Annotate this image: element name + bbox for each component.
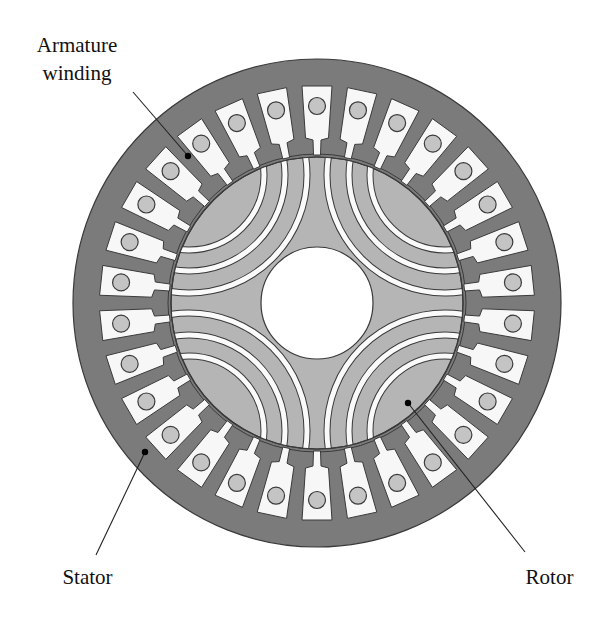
armature-conductor <box>479 393 496 410</box>
armature-conductor <box>389 474 406 491</box>
armature-winding-label: Armature winding <box>22 31 132 87</box>
armature-conductor <box>424 454 441 471</box>
armature-conductor <box>138 393 155 410</box>
armature-conductor <box>496 234 513 251</box>
rotor-label: Rotor <box>512 563 587 591</box>
armature-conductor <box>504 315 521 332</box>
rotor-leader-dot <box>405 400 411 406</box>
armature-conductor <box>162 163 179 180</box>
armature-conductor <box>138 196 155 213</box>
armature-conductor <box>113 315 130 332</box>
armature-conductor <box>504 274 521 291</box>
armature-conductor <box>479 196 496 213</box>
motor-diagram-svg <box>0 0 611 625</box>
armature-conductor <box>496 355 513 372</box>
armature-label-line1: Armature <box>22 31 132 59</box>
armature-conductor <box>349 102 366 119</box>
armature-conductor <box>193 135 210 152</box>
armature-conductor <box>162 426 179 443</box>
armature-conductor <box>121 234 138 251</box>
stator-label: Stator <box>50 563 125 591</box>
armature-conductor <box>309 98 326 115</box>
stator-leader-line <box>96 452 145 555</box>
armature-conductor <box>455 163 472 180</box>
stator-leader-dot <box>142 449 148 455</box>
shaft-hole <box>261 247 373 359</box>
armature-conductor <box>268 102 285 119</box>
armature-conductor <box>424 135 441 152</box>
armature-leader-dot <box>185 153 191 159</box>
armature-conductor <box>268 487 285 504</box>
armature-label-line2: winding <box>22 59 132 87</box>
armature-conductor <box>349 487 366 504</box>
armature-conductor <box>193 454 210 471</box>
armature-conductor <box>455 426 472 443</box>
motor-cross-section-figure: Armature winding Stator Rotor <box>0 0 611 625</box>
armature-conductor <box>228 115 245 132</box>
armature-conductor <box>113 274 130 291</box>
armature-conductor <box>121 355 138 372</box>
armature-conductor <box>309 492 326 509</box>
armature-conductor <box>389 115 406 132</box>
armature-conductor <box>228 474 245 491</box>
